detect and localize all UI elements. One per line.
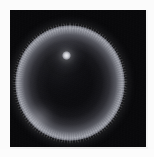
panel-edge-seam-right [146, 10, 148, 147]
astronomical-image-panel [10, 10, 146, 147]
figure-root [0, 0, 154, 157]
caption-strip [0, 149, 154, 157]
compact-point-source [56, 45, 77, 66]
point-source-core [62, 51, 71, 60]
